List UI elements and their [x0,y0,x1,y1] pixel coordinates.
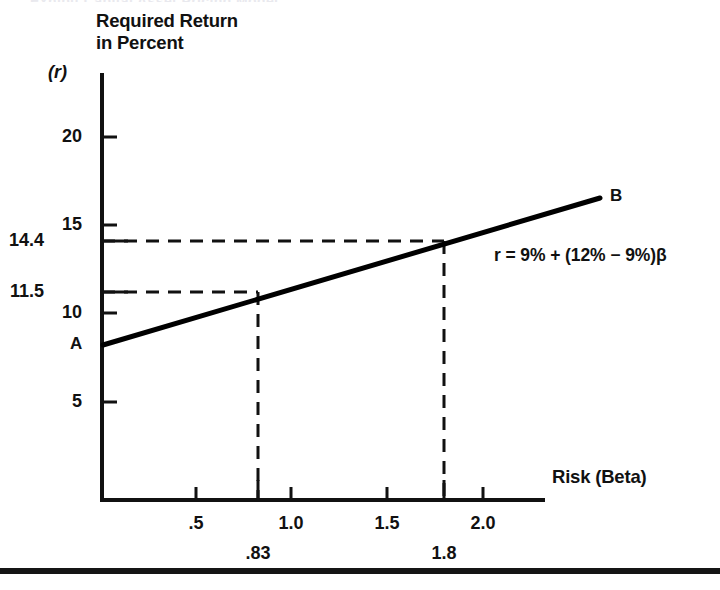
y-axis-title-line1: Required Return [96,10,238,32]
y-axis-symbol: (r) [48,62,67,83]
y-axis-title: Required Return in Percent [96,10,238,54]
point-label-a: A [70,334,82,354]
clipped-header-text: Exhibit Capital Asset Pricing Model [30,0,278,2]
y-tick-label-10: 10 [30,302,82,323]
vertical-dashed-guides [258,241,444,500]
x-special-label-0-83: .83 [245,543,270,564]
x-axis-special-ticks [258,480,444,500]
y-tick-label-5: 5 [30,391,82,412]
security-market-line [103,198,600,345]
chart-canvas [0,0,720,590]
x-axis-title: Risk (Beta) [552,466,646,488]
y-axis-symbol-text: (r) [48,62,67,82]
x-tick-label-0-5: .5 [188,513,203,534]
y-special-label-11-5: 11.5 [0,281,44,302]
y-axis-ticks [102,137,117,402]
bottom-divider-rule [0,568,720,574]
equation-annotation: r = 9% + (12% − 9%)β [494,245,667,266]
x-special-label-1-8: 1.8 [431,543,456,564]
x-tick-label-1-0: 1.0 [278,513,303,534]
chart-figure: Exhibit Capital Asset Pricing Model [0,0,720,590]
horizontal-dashed-guides [102,241,444,292]
y-special-label-14-4: 14.4 [0,230,44,251]
dashed-guide-axis-stubs [102,241,128,292]
point-label-b: B [610,186,622,206]
x-tick-label-1-5: 1.5 [374,513,399,534]
y-tick-label-20: 20 [30,126,82,147]
y-axis-title-line2: in Percent [96,32,238,54]
x-tick-label-2-0: 2.0 [470,513,495,534]
